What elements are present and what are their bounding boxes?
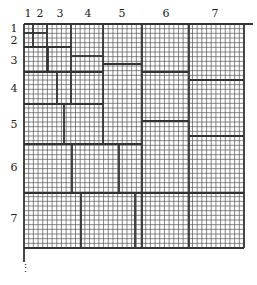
block-grid-diagram: 1234567 1234567 ⋮ [0, 0, 257, 285]
column-label: 2 [37, 7, 44, 20]
column-label: 7 [212, 7, 219, 20]
row-label: 4 [11, 82, 18, 95]
row-label: 7 [11, 212, 18, 225]
row-labels: 1234567 [11, 22, 18, 225]
column-label: 5 [119, 7, 126, 20]
row-label: 5 [11, 118, 18, 131]
row-label: 3 [11, 54, 18, 67]
column-labels: 1234567 [25, 7, 219, 20]
row-label: 2 [11, 34, 18, 47]
column-label: 3 [57, 7, 64, 20]
column-label: 4 [85, 7, 92, 20]
column-label: 1 [25, 7, 32, 20]
column-label: 6 [163, 7, 170, 20]
row-label: 6 [11, 161, 18, 174]
block-partition-lines [24, 24, 253, 262]
continuation-marker: ⋮ [20, 262, 31, 275]
